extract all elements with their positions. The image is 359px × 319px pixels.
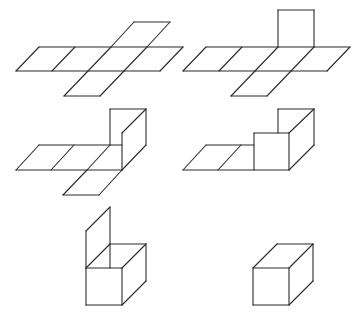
edge-line [122, 244, 146, 268]
edge-line [124, 47, 147, 71]
edge-line [87, 145, 110, 170]
edge-line [253, 244, 277, 268]
cube-net-diagram [0, 0, 359, 319]
edge-line [327, 47, 350, 71]
edge-line [122, 281, 146, 305]
figure-step-2 [183, 10, 350, 96]
edge-line [100, 71, 124, 96]
edge-line [51, 145, 74, 170]
edge-line [183, 145, 206, 170]
edge-line [160, 47, 183, 71]
edge-line [255, 47, 278, 71]
edge-line [16, 47, 39, 71]
edge-line [16, 145, 39, 170]
edge-line [289, 145, 314, 170]
figure-step-6 [253, 244, 313, 305]
edge-line [289, 244, 313, 268]
edge-line [64, 71, 88, 96]
edge-line [289, 109, 314, 133]
figure-step-4 [183, 109, 314, 170]
edge-line [147, 22, 170, 47]
edge-line [291, 47, 314, 71]
edge-line [86, 207, 110, 231]
edge-line [231, 71, 255, 96]
edge-line [111, 22, 134, 47]
edge-line [122, 109, 146, 133]
edge-line [88, 47, 111, 71]
edge-line [86, 244, 110, 268]
edge-line [218, 145, 241, 170]
edge-line [219, 47, 242, 71]
edge-line [99, 170, 122, 195]
edge-line [267, 71, 291, 96]
edge-line [52, 47, 75, 71]
edge-line [122, 145, 146, 170]
edge-line [289, 281, 313, 305]
edge-line [183, 47, 206, 71]
figure-step-5 [86, 207, 146, 305]
edge-line [63, 170, 87, 195]
figure-step-1 [16, 22, 183, 96]
figure-step-3 [16, 109, 146, 195]
